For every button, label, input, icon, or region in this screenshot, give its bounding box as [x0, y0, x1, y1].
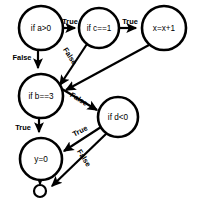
node-label-if-a-gt-0: if a>0	[31, 24, 52, 33]
node-label-if-b-eq-3: if b==3	[28, 92, 53, 101]
node-if-c-eq-1[interactable]: if c==1	[79, 8, 119, 48]
node-label-if-c-eq-1: if c==1	[87, 24, 112, 33]
edge-label-b-true-y: True	[15, 123, 31, 132]
node-y-assign[interactable]: y=0	[20, 138, 62, 180]
node-terminal[interactable]	[34, 185, 46, 197]
node-shape-terminal[interactable]	[34, 185, 46, 197]
node-if-b-eq-3[interactable]: if b==3	[19, 74, 63, 118]
flowchart-diagram: c==1 --> True b==3 --> False x=x+1 --> T…	[0, 0, 197, 203]
node-label-x-assign: x=x+1	[153, 24, 176, 33]
node-label-y-assign: y=0	[34, 155, 48, 164]
node-x-assign[interactable]: x=x+1	[142, 6, 186, 50]
edge-label-c-true-x: True	[122, 17, 138, 26]
node-if-a-gt-0[interactable]: if a>0	[19, 6, 63, 50]
edge-label-a-true-c: True	[62, 17, 78, 26]
node-if-d-lt-0[interactable]: if d<0	[98, 97, 138, 137]
edge-label-a-false-b: False	[13, 53, 32, 62]
node-label-if-d-lt-0: if d<0	[108, 113, 129, 122]
